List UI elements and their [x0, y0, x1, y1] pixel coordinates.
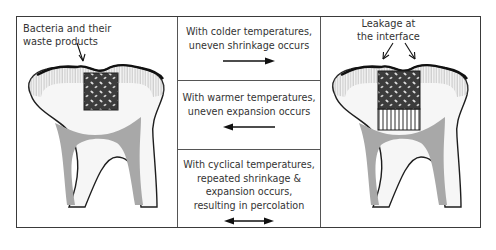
step-cyclical-text: With cyclical temperatures, repeated shr… [178, 158, 320, 212]
right-arrow-icon [223, 57, 275, 65]
left-arrow-icon [223, 123, 275, 131]
tooth-with-leakage-illustration [321, 17, 481, 229]
bacteria-label: Bacteria and their waste products [23, 22, 111, 48]
right-panel: Leakage at the interface [321, 17, 481, 227]
left-panel: Bacteria and their waste products [17, 17, 177, 227]
double-arrow-icon [224, 217, 274, 225]
step-cold: With colder temperatures, uneven shrinka… [178, 17, 320, 80]
step-warm-text: With warmer temperatures, uneven expansi… [178, 91, 320, 118]
step-cold-text: With colder temperatures, uneven shrinka… [178, 25, 320, 52]
center-panel: With colder temperatures, uneven shrinka… [177, 17, 321, 227]
step-cyclical: With cyclical temperatures, repeated shr… [178, 149, 320, 229]
leakage-label: Leakage at the interface [357, 17, 420, 43]
step-warm: With warmer temperatures, uneven expansi… [178, 80, 320, 149]
tooth-with-restoration-illustration [17, 17, 177, 229]
diagram-frame: Bacteria and their waste products With c… [16, 16, 481, 228]
